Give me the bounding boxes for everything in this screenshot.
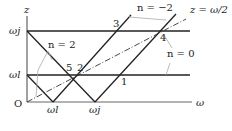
point-2: 2 — [77, 63, 83, 73]
diagram: z ω O ωj ωl ωl ωj n = 2 n = −2 n = 0 z =… — [0, 0, 232, 131]
omega-j-y-label: ωj — [9, 26, 20, 36]
line-down-l — [27, 75, 53, 102]
omega-l-x-label: ωl — [47, 105, 58, 115]
z-axis-label: z — [24, 5, 29, 15]
annotation-n-2: n = 2 — [48, 40, 76, 50]
point-4: 4 — [160, 33, 166, 43]
leader-n0b — [166, 63, 170, 75]
leader-nneg2 — [129, 14, 166, 20]
origin-label: O — [14, 99, 22, 109]
line-up-j — [95, 14, 176, 102]
omega-l-y-label: ωl — [9, 70, 20, 80]
point-5: 5 — [66, 63, 72, 73]
omega-j-x-label: ωj — [89, 105, 100, 115]
point-1: 1 — [121, 77, 127, 87]
annotation-z-half: z = ω/2 — [190, 5, 228, 15]
annotation-n-0: n = 0 — [167, 49, 195, 59]
point-3: 3 — [113, 19, 119, 29]
leader-n2b — [48, 51, 52, 60]
omega-axis-label: ω — [196, 98, 204, 108]
annotation-n-neg2: n = −2 — [137, 3, 173, 13]
